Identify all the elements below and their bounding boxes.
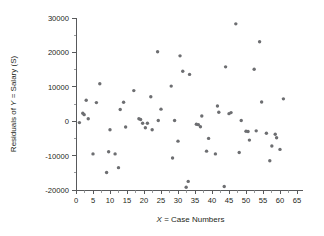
scatter-plot-figure: -20000-100000100002000030000 05101520253… xyxy=(0,0,324,236)
data-point xyxy=(187,180,190,183)
data-point xyxy=(171,156,174,159)
data-point xyxy=(181,70,184,73)
data-point xyxy=(270,144,273,147)
data-point xyxy=(248,138,251,141)
data-point xyxy=(217,111,220,114)
data-point xyxy=(216,104,219,107)
data-point xyxy=(113,152,116,155)
data-point xyxy=(95,101,98,104)
data-point xyxy=(91,152,94,155)
data-point xyxy=(159,107,162,110)
y-tick-label: 10000 xyxy=(48,83,69,92)
data-point xyxy=(141,122,144,125)
scatter-plot-canvas: -20000-100000100002000030000 05101520253… xyxy=(0,0,324,236)
x-tick-label: 55 xyxy=(259,196,267,205)
data-point xyxy=(223,185,226,188)
data-point xyxy=(205,149,208,152)
data-point xyxy=(85,99,88,102)
data-point xyxy=(146,122,149,125)
y-tick-label: 0 xyxy=(65,117,69,126)
x-tick-label: 30 xyxy=(174,196,182,205)
data-point xyxy=(149,95,152,98)
data-point xyxy=(240,119,243,122)
data-points-layer xyxy=(78,22,285,189)
data-point xyxy=(246,130,249,133)
x-tick-label: 65 xyxy=(293,196,301,205)
data-point xyxy=(229,111,232,114)
data-point xyxy=(268,159,271,162)
data-point xyxy=(107,150,110,153)
y-tick-label: -20000 xyxy=(45,186,69,195)
data-point xyxy=(176,139,179,142)
data-point xyxy=(178,54,181,57)
data-point xyxy=(144,126,147,129)
data-point xyxy=(265,132,268,135)
data-point xyxy=(78,121,81,124)
x-tick-label: 10 xyxy=(106,196,114,205)
data-point xyxy=(98,82,101,85)
data-point xyxy=(150,128,153,131)
data-point xyxy=(173,119,176,122)
data-point xyxy=(105,171,108,174)
data-point xyxy=(108,128,111,131)
data-point xyxy=(234,22,237,25)
data-point xyxy=(119,108,122,111)
x-tick-label: 45 xyxy=(225,196,233,205)
data-point xyxy=(258,40,261,43)
data-point xyxy=(274,133,277,136)
x-tick-label: 20 xyxy=(140,196,148,205)
data-point xyxy=(260,100,263,103)
data-point xyxy=(278,148,281,151)
data-point xyxy=(157,119,160,122)
data-point xyxy=(170,84,173,87)
x-axis-title: X = Case Numbers xyxy=(156,215,225,224)
data-point xyxy=(188,73,191,76)
data-point xyxy=(87,117,90,120)
y-axis-title: Residuals of Y = Salary (S) xyxy=(9,56,18,153)
data-point xyxy=(282,97,285,100)
y-tick-label: 30000 xyxy=(48,14,69,23)
data-point xyxy=(252,68,255,71)
x-tick-label: 50 xyxy=(242,196,250,205)
x-tick-label: 5 xyxy=(91,196,95,205)
x-axis: 05101520253035404550556065 xyxy=(74,190,303,205)
data-point xyxy=(199,125,202,128)
data-point xyxy=(200,114,203,117)
data-point xyxy=(207,137,210,140)
x-tick-label: 35 xyxy=(191,196,199,205)
y-axis: -20000-100000100002000030000 xyxy=(45,14,76,195)
data-point xyxy=(124,125,127,128)
data-point xyxy=(255,129,258,132)
x-tick-label: 25 xyxy=(157,196,165,205)
data-point xyxy=(82,113,85,116)
data-point xyxy=(122,101,125,104)
data-point xyxy=(275,136,278,139)
data-point xyxy=(132,89,135,92)
data-point xyxy=(238,151,241,154)
x-tick-label: 15 xyxy=(123,196,131,205)
y-tick-label: -10000 xyxy=(45,152,69,161)
data-point xyxy=(156,50,159,53)
data-point xyxy=(184,186,187,189)
data-point xyxy=(224,65,227,68)
y-tick-label: 20000 xyxy=(48,48,69,57)
data-point xyxy=(139,118,142,121)
data-point xyxy=(214,152,217,155)
x-tick-label: 40 xyxy=(208,196,216,205)
data-point xyxy=(117,166,120,169)
x-tick-label: 0 xyxy=(74,196,78,205)
x-tick-label: 60 xyxy=(276,196,284,205)
